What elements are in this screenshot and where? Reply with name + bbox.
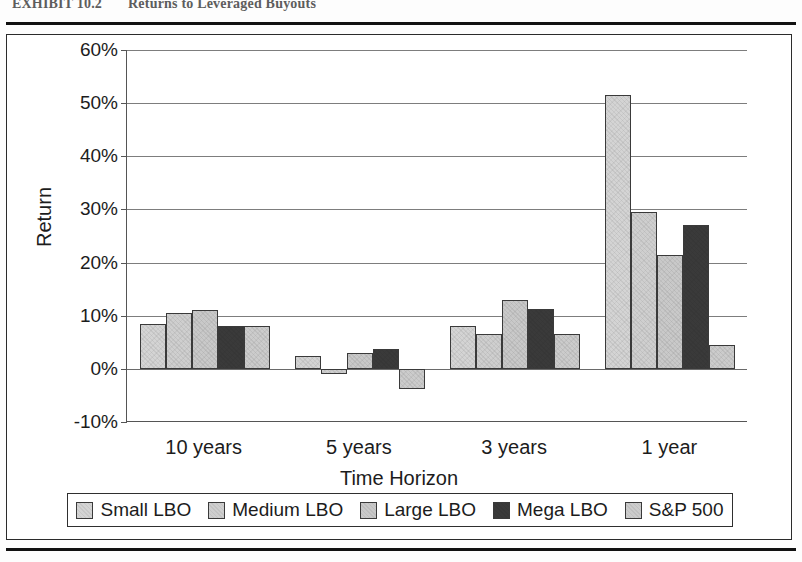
x-category-label: 1 year (642, 436, 698, 459)
legend-item: Large LBO (360, 499, 476, 521)
y-tick-mark (121, 422, 127, 423)
bar-group (438, 50, 593, 421)
bar (321, 369, 347, 374)
exhibit-title-text: Returns to Leveraged Buyouts (128, 0, 316, 11)
legend-swatch-icon (208, 502, 225, 519)
bar-group (593, 50, 748, 421)
y-tick-label: 10% (80, 305, 118, 327)
y-tick-label: 30% (80, 198, 118, 220)
exhibit-number: EXHIBIT 10.2 (12, 0, 102, 11)
bar (244, 326, 270, 369)
legend-label: Medium LBO (232, 499, 343, 521)
y-axis-title: Return (33, 187, 56, 247)
chart-frame: Return 60%50%40%30%20%10%0%-10% Time Hor… (6, 34, 792, 540)
bar (683, 225, 709, 368)
x-category-label: 3 years (481, 436, 547, 459)
legend-item: Small LBO (76, 499, 191, 521)
x-axis-title: Time Horizon (7, 467, 791, 490)
legend-swatch-icon (493, 502, 510, 519)
y-tick-label: 20% (80, 252, 118, 274)
bar (476, 334, 502, 369)
bar (140, 324, 166, 369)
bar (166, 313, 192, 369)
bar (554, 334, 580, 369)
chart-legend: Small LBOMedium LBOLarge LBOMega LBOS&P … (67, 493, 733, 527)
footer-rule-bottom (6, 548, 796, 551)
bar (373, 349, 399, 369)
bar-group (127, 50, 282, 421)
x-category-label: 10 years (165, 436, 242, 459)
y-tick-label: 40% (80, 145, 118, 167)
legend-label: S&P 500 (649, 499, 724, 521)
legend-item: Medium LBO (208, 499, 343, 521)
bar (347, 353, 373, 369)
legend-label: Large LBO (384, 499, 476, 521)
bar (295, 356, 321, 369)
bar (502, 300, 528, 369)
bar (192, 310, 218, 368)
bar (631, 212, 657, 369)
y-tick-label: 0% (91, 358, 118, 380)
bar (528, 309, 554, 369)
bar (218, 326, 244, 369)
header-rule-top (6, 22, 796, 25)
legend-swatch-icon (625, 502, 642, 519)
exhibit-title: EXHIBIT 10.2Returns to Leveraged Buyouts (12, 0, 792, 12)
plot-area: 60%50%40%30%20%10%0%-10% (126, 50, 747, 422)
legend-label: Small LBO (100, 499, 191, 521)
y-tick-label: 50% (80, 92, 118, 114)
legend-item: Mega LBO (493, 499, 608, 521)
bar (605, 95, 631, 369)
x-category-label: 5 years (326, 436, 392, 459)
bar-group (282, 50, 437, 421)
bar (450, 326, 476, 369)
legend-label: Mega LBO (517, 499, 608, 521)
legend-item: S&P 500 (625, 499, 724, 521)
y-tick-label: -10% (74, 411, 118, 433)
bar (399, 369, 425, 389)
y-tick-label: 60% (80, 39, 118, 61)
bar (657, 255, 683, 369)
bar (709, 345, 735, 369)
legend-swatch-icon (360, 502, 377, 519)
exhibit-page: EXHIBIT 10.2Returns to Leveraged Buyouts… (0, 0, 802, 562)
legend-swatch-icon (76, 502, 93, 519)
